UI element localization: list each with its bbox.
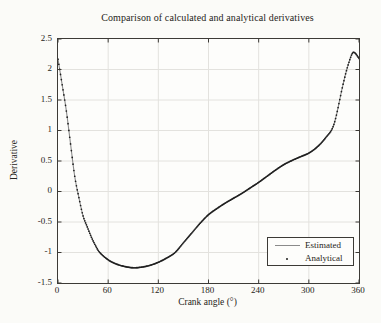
legend-label: Analytical: [305, 252, 343, 265]
legend-item-estimated: Estimated: [268, 239, 353, 252]
legend-item-analytical: Analytical: [268, 252, 353, 265]
x-tick-label: 0: [40, 285, 74, 295]
x-axis-label: Crank angle (°): [57, 297, 358, 307]
y-tick-label: 1.5: [16, 94, 52, 104]
x-tick-label: 120: [140, 285, 174, 295]
legend-label: Estimated: [305, 239, 341, 252]
x-tick-label: 360: [341, 285, 375, 295]
x-tick-label: 60: [90, 285, 124, 295]
y-tick-label: 0: [16, 185, 52, 195]
y-tick-label: 0.5: [16, 155, 52, 165]
x-tick-label: 180: [191, 285, 225, 295]
derivative-comparison-figure: Comparison of calculated and analytical …: [0, 0, 381, 323]
y-tick-label: 2: [16, 63, 52, 73]
chart-title: Comparison of calculated and analytical …: [57, 12, 358, 23]
dot-marker-icon: [286, 258, 288, 260]
y-tick-label: 1: [16, 124, 52, 134]
y-tick-label: 2.5: [16, 33, 52, 43]
y-tick-label: -0.5: [16, 216, 52, 226]
legend: Estimated Analytical: [267, 237, 354, 266]
x-tick-label: 240: [241, 285, 275, 295]
line-sample-icon: [275, 245, 300, 246]
y-tick-label: -1: [16, 246, 52, 256]
x-tick-label: 300: [291, 285, 325, 295]
y-tick-label: -1.5: [16, 277, 52, 287]
